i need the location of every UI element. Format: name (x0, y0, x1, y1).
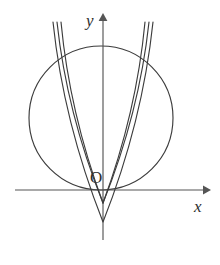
x-axis-label: x (193, 197, 202, 216)
y-axis-arrow-icon (99, 13, 108, 21)
x-axis-arrow-icon (203, 186, 211, 195)
y-axis-label: y (84, 11, 94, 30)
wide-parabola-arm-right (103, 22, 145, 203)
origin-label: O (90, 168, 102, 187)
figure-canvas: y x O (0, 0, 220, 265)
math-figure: y x O (0, 0, 220, 265)
